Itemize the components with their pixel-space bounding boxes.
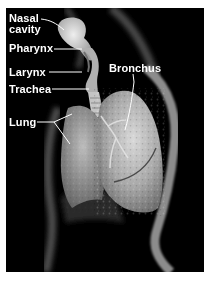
nasal-cavity-shape (58, 18, 93, 61)
label-lung: Lung (9, 117, 36, 128)
label-trachea: Trachea (9, 84, 51, 95)
chest-contour (46, 108, 58, 272)
label-bronchus: Bronchus (109, 63, 161, 74)
label-cavity-text: cavity (9, 24, 41, 35)
anatomy-figure-panel: Nasal cavity Pharynx Larynx Trachea Bron… (6, 8, 204, 272)
label-pharynx: Pharynx (9, 43, 53, 54)
label-larynx: Larynx (9, 67, 46, 78)
label-nasal-cavity: Nasal cavity (9, 13, 41, 35)
